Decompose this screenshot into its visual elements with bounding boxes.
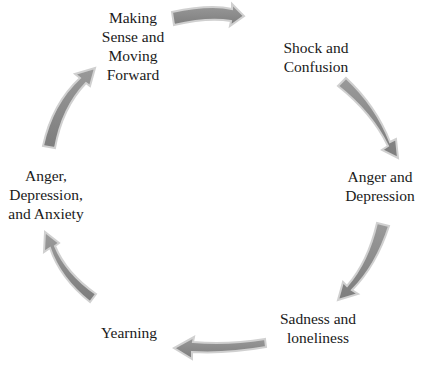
- arrow-sadness-to-yearning: [174, 337, 266, 359]
- arrow-shock-to-anger-depression: [338, 78, 398, 158]
- node-anger-depression: Anger and Depression: [328, 167, 429, 205]
- node-yearning: Yearning: [84, 323, 174, 342]
- node-anger-depression-anxiety: Anger, Depression, and Anxiety: [0, 166, 92, 223]
- node-sadness-loneliness: Sadness and loneliness: [263, 309, 373, 347]
- arrow-making-sense-to-shock: [172, 4, 244, 26]
- arrow-yearning-to-anger-anxiety: [44, 232, 96, 302]
- arrow-anger-depression-to-sadness: [338, 223, 389, 300]
- node-making-sense: Making Sense and Moving Forward: [88, 8, 178, 84]
- node-shock-confusion: Shock and Confusion: [266, 38, 366, 76]
